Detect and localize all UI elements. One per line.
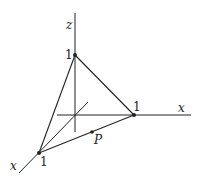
- edge-front-right: [39, 115, 134, 153]
- tetrahedron-diagram: z x x 1 1 1 P: [0, 0, 203, 185]
- point-p-label: P: [93, 133, 103, 147]
- vertex-top-label: 1: [65, 48, 73, 62]
- horizontal-axis-label: x: [178, 101, 185, 115]
- vertex-front-label: 1: [40, 155, 48, 169]
- vertex-top-dot: [73, 53, 77, 57]
- diagonal-axis-label: x: [10, 159, 17, 173]
- edge-top-front: [39, 55, 75, 153]
- vertex-right-label: 1: [133, 100, 141, 114]
- z-axis-label: z: [65, 18, 73, 32]
